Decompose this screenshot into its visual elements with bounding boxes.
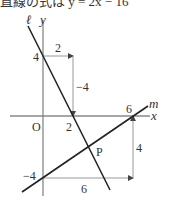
l-run-label: 2 [55, 41, 61, 55]
origin-label: O [32, 120, 41, 134]
l-y-intercept-label: 4 [33, 50, 39, 64]
line-m-label: m [149, 96, 158, 111]
l-rise-label: −4 [76, 80, 89, 94]
line-l-label: ℓ [26, 12, 32, 27]
coordinate-diagram: ℓ y x m O 4 2 −4 2 6 4 −4 6 P [0, 0, 169, 208]
y-axis-label: y [38, 12, 46, 27]
line-m [22, 106, 148, 192]
m-run-label: 6 [81, 182, 87, 196]
m-rise-label: 4 [136, 141, 142, 155]
line-l [28, 26, 110, 190]
m-x-intercept-label: 6 [126, 102, 132, 116]
m-y-intercept-label: −4 [23, 169, 36, 183]
l-x-intercept-label: 2 [66, 120, 72, 134]
intersection-p-label: P [96, 145, 103, 159]
